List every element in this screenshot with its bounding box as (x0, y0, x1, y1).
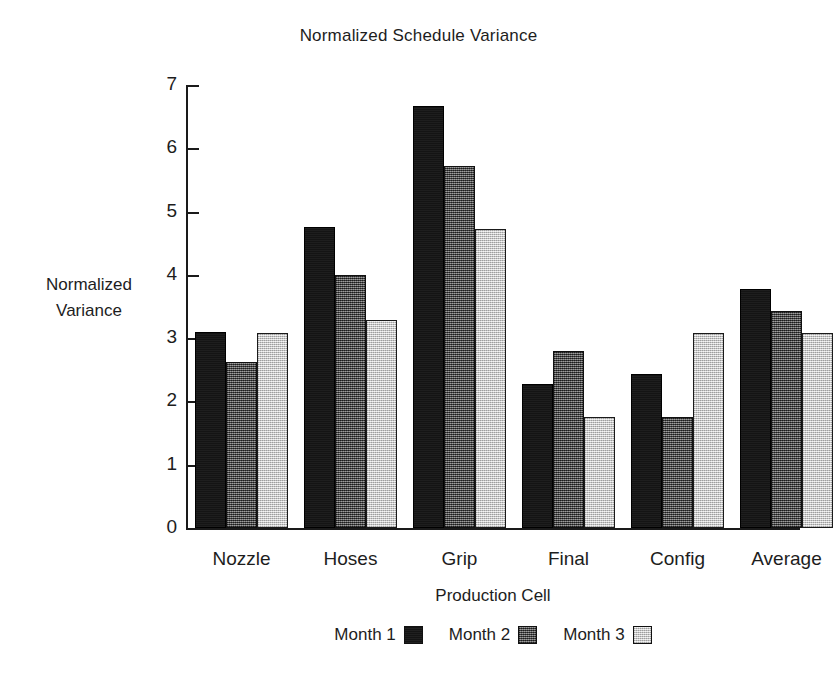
legend-swatch (633, 626, 652, 644)
bar[interactable] (522, 384, 553, 528)
y-axis-tick-label: 6 (137, 136, 177, 158)
plot-area: 01234567 (186, 85, 800, 528)
chart-title: Normalized Schedule Variance (0, 26, 837, 46)
legend-swatch (404, 626, 423, 644)
legend-item[interactable]: Month 2 (449, 625, 537, 645)
y-axis-title: Normalized Variance (26, 272, 152, 324)
legend-label: Month 3 (563, 625, 624, 645)
y-axis-tick-mark (188, 528, 199, 530)
bar[interactable] (413, 106, 444, 528)
chart-figure: Normalized Schedule Variance Normalized … (0, 0, 837, 689)
y-axis-title-line-1: Normalized (26, 272, 152, 298)
bar-group (522, 85, 615, 528)
bar[interactable] (584, 417, 615, 528)
legend-item[interactable]: Month 1 (334, 625, 422, 645)
y-axis-tick-label: 5 (137, 200, 177, 222)
y-axis-tick-label: 7 (137, 73, 177, 95)
y-axis-tick-label: 1 (137, 453, 177, 475)
y-axis-title-line-2: Variance (26, 298, 152, 324)
bar[interactable] (693, 333, 724, 528)
x-axis-category-label: Average (717, 548, 837, 570)
y-axis-tick-label: 0 (137, 516, 177, 538)
legend-swatch (518, 626, 537, 644)
bar[interactable] (771, 311, 802, 528)
y-axis-tick-label: 3 (137, 326, 177, 348)
bar[interactable] (226, 362, 257, 528)
bar-group (631, 85, 724, 528)
bar[interactable] (195, 332, 226, 528)
bar[interactable] (475, 229, 506, 528)
bar-group (195, 85, 288, 528)
bar[interactable] (335, 275, 366, 528)
bar[interactable] (662, 417, 693, 528)
bar-group (413, 85, 506, 528)
bar[interactable] (257, 333, 288, 528)
bar[interactable] (740, 289, 771, 528)
legend-item[interactable]: Month 3 (563, 625, 651, 645)
chart-legend: Month 1Month 2Month 3 (186, 625, 800, 645)
x-axis-line (186, 528, 800, 530)
bar-group (740, 85, 833, 528)
bar-series-container (188, 85, 800, 528)
bar-group (304, 85, 397, 528)
x-axis-title: Production Cell (186, 586, 800, 606)
legend-label: Month 1 (334, 625, 395, 645)
bar[interactable] (366, 320, 397, 528)
bar[interactable] (802, 333, 833, 528)
bar[interactable] (304, 227, 335, 528)
y-axis-tick-label: 2 (137, 389, 177, 411)
legend-label: Month 2 (449, 625, 510, 645)
bar[interactable] (631, 374, 662, 528)
y-axis-tick-label: 4 (137, 263, 177, 285)
bar[interactable] (553, 351, 584, 528)
bar[interactable] (444, 166, 475, 528)
